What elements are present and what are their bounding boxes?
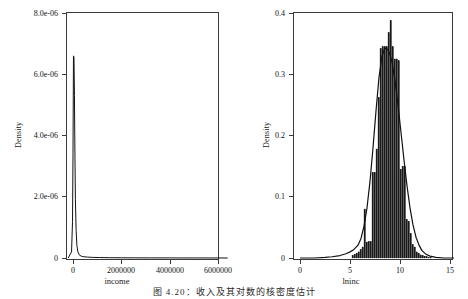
histogram-bar <box>410 234 412 259</box>
histogram-bar <box>416 252 418 258</box>
histogram-bar <box>356 253 358 258</box>
histogram-bar <box>370 241 372 258</box>
histogram-bar <box>358 252 360 258</box>
histogram-bar <box>366 242 368 258</box>
histogram-bar <box>426 257 428 258</box>
histogram-bar <box>360 249 362 258</box>
histogram-bar <box>376 149 378 258</box>
histogram-bar <box>384 47 386 258</box>
histogram-bar <box>352 256 354 258</box>
histogram-bar <box>398 61 400 258</box>
histogram-bar <box>386 47 388 258</box>
histogram-bar <box>408 221 410 258</box>
histogram-bar <box>372 172 374 258</box>
panel-lninc-density: Density 0.4 0.3 0.2 0.1 0 0 5 10 15 lnin… <box>234 0 468 299</box>
histogram-bar <box>424 256 426 258</box>
density-line <box>68 56 228 258</box>
histogram-bar <box>428 257 430 258</box>
histogram-bar <box>380 49 382 258</box>
histogram-bar <box>422 256 424 258</box>
histogram-bars <box>352 20 432 258</box>
histogram-bar <box>362 247 364 258</box>
figure-caption: 图 4.20：收入及其对数的核密度估计 <box>0 286 468 299</box>
histogram-bar <box>418 253 420 258</box>
income-density-curve <box>0 0 234 299</box>
histogram-bar <box>388 33 390 258</box>
histogram-bar <box>378 98 380 258</box>
histogram-bar <box>412 245 414 258</box>
histogram-bar <box>368 241 370 258</box>
lninc-histogram-and-curve <box>234 0 468 299</box>
histogram-bar <box>382 47 384 258</box>
figure-container: Density 8.0e-06 6.0e-06 4.0e-06 2.0e-06 … <box>0 0 468 299</box>
histogram-bar <box>414 247 416 258</box>
histogram-bar <box>374 172 376 258</box>
histogram-bar <box>354 254 356 258</box>
histogram-bar <box>404 166 406 258</box>
histogram-bar <box>400 169 402 258</box>
histogram-bar <box>392 47 394 258</box>
panel-income-density: Density 8.0e-06 6.0e-06 4.0e-06 2.0e-06 … <box>0 0 234 299</box>
histogram-bar <box>420 255 422 258</box>
histogram-bar <box>406 219 408 258</box>
histogram-bar <box>394 59 396 258</box>
histogram-bar <box>430 257 432 258</box>
histogram-bar <box>402 166 404 258</box>
